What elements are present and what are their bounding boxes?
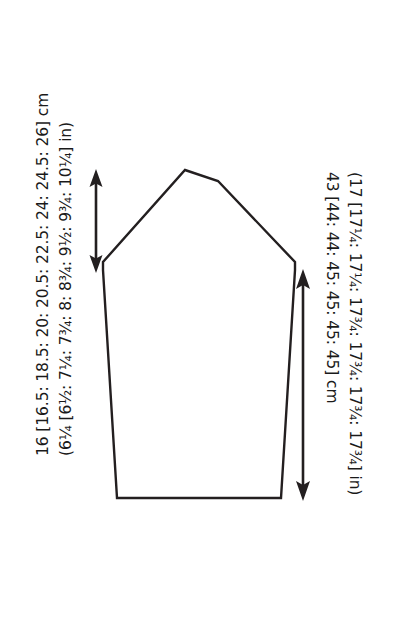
cap-height-cm-label: 16 [16.5: 18.5: 20: 20.5: 22.5: 24: 24.5… — [36, 93, 52, 456]
schematic-diagram: 16 [16.5: 18.5: 20: 20.5: 22.5: 24: 24.5… — [0, 0, 393, 627]
cap-height-arrow — [90, 169, 103, 273]
body-length-in-label: (17 [17¼: 17¼: 17¾: 17¾: 17¾: 17¾] in) — [346, 172, 362, 495]
body-length-cm-label: 43 [44: 44: 45: 45: 45: 45] cm — [323, 172, 339, 403]
body-length-arrow — [296, 269, 310, 501]
garment-panel-outline — [103, 170, 295, 498]
cap-height-in-label: (6¼ [6½: 7¼: 7¾: 8: 8¾: 9½: 9¾: 10¼] in) — [59, 122, 75, 456]
